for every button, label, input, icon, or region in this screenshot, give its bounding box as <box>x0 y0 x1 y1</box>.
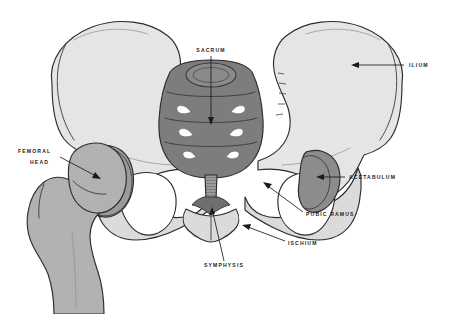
label-ilium: ILIUM <box>409 62 429 68</box>
label-acetabulum: ACETABULUM <box>349 174 396 180</box>
label-pubic-ramus: PUBIC RAMUS <box>306 211 355 217</box>
pelvis-diagram-figure: SACRUM ILIUM FEMORAL HEAD ACETABULUM PUB… <box>0 0 454 314</box>
label-sacrum: SACRUM <box>196 47 225 53</box>
label-ischium: ISCHIUM <box>288 240 318 246</box>
pelvis-diagram-canvas: SACRUM ILIUM FEMORAL HEAD ACETABULUM PUB… <box>0 0 454 314</box>
label-femoral-head-line2: HEAD <box>30 159 49 165</box>
label-femoral-head-line1: FEMORAL <box>18 148 51 154</box>
label-symphysis: SYMPHYSIS <box>204 262 244 268</box>
